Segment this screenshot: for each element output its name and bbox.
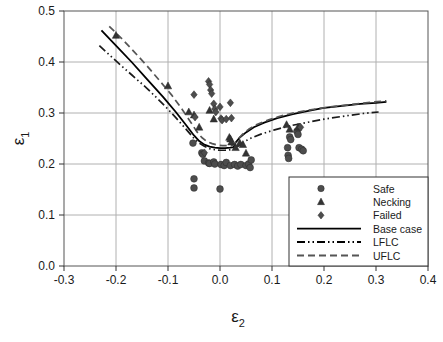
marker-diamond [191, 91, 197, 99]
x-axis-tick-label: -0.1 [158, 273, 179, 287]
x-axis-tick-label: 0.3 [368, 273, 385, 287]
x-axis-title: ε2 [231, 307, 245, 329]
legend-label-base-case: Base case [373, 223, 422, 235]
marker-triangle [185, 108, 192, 115]
x-axis-tick-label: 0.4 [420, 273, 437, 287]
marker-circle [191, 175, 198, 182]
marker-triangle [196, 123, 203, 130]
curve-uflc [109, 26, 386, 145]
legend-label-failed: Failed [373, 209, 402, 221]
chart-canvas: -0.3-0.2-0.10.00.10.20.30.40.00.10.20.30… [0, 0, 443, 342]
marker-circle [287, 136, 294, 143]
marker-circle [190, 140, 197, 147]
y-axis-tick-label: 0.3 [38, 106, 55, 120]
marker-circle [295, 131, 302, 138]
legend-box [289, 177, 428, 266]
y-axis-tick-label: 0.4 [38, 55, 55, 69]
y-axis-title: ε1 [9, 132, 31, 146]
data-points [112, 31, 306, 192]
marker-circle [248, 157, 255, 164]
marker-circle [211, 161, 218, 168]
legend-label-uflc: UFLC [373, 250, 401, 262]
marker-diamond [217, 103, 223, 111]
y-axis-tick-label: 0.0 [38, 259, 55, 273]
legend-label-lflc: LFLC [373, 236, 399, 248]
curve-lflc [99, 46, 378, 151]
legend-label-necking: Necking [373, 196, 411, 208]
y-axis-tick-label: 0.1 [38, 208, 55, 222]
x-axis-tick-label: -0.2 [106, 273, 127, 287]
x-axis-tick-label: 0.1 [264, 273, 281, 287]
marker-triangle [242, 149, 249, 156]
marker-diamond [227, 99, 233, 107]
x-axis-tick-label: -0.3 [54, 273, 75, 287]
x-axis-tick-label: 0.0 [212, 273, 229, 287]
marker-circle [285, 155, 292, 162]
legend-label-safe: Safe [373, 183, 395, 195]
curve-base-case [101, 30, 386, 148]
marker-circle [318, 185, 324, 191]
marker-diamond [228, 114, 234, 122]
marker-circle [247, 164, 254, 171]
forming-limit-diagram: -0.3-0.2-0.10.00.10.20.30.40.00.10.20.30… [0, 0, 443, 342]
x-axis-tick-label: 0.2 [316, 273, 333, 287]
y-axis-tick-label: 0.2 [38, 157, 55, 171]
marker-circle [300, 147, 307, 154]
marker-circle [284, 144, 291, 151]
marker-circle [217, 186, 224, 193]
marker-circle [191, 185, 198, 192]
marker-triangle [210, 115, 217, 122]
marker-triangle [164, 82, 171, 89]
y-axis-tick-label: 0.5 [38, 4, 55, 18]
